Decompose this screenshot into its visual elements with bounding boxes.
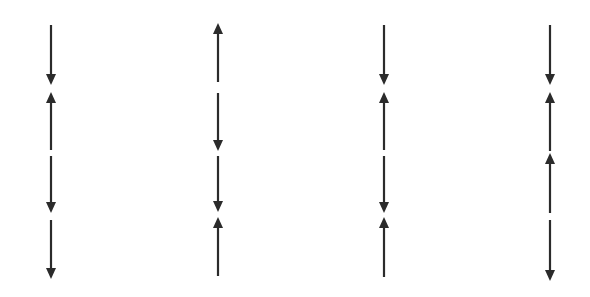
arrow-head — [379, 217, 389, 228]
arrow-up-icon — [379, 217, 389, 277]
arrow-down-icon — [379, 25, 389, 85]
arrow-head — [46, 74, 56, 85]
arrow-up-icon — [46, 92, 56, 150]
arrow-down-icon — [545, 25, 555, 85]
arrow-diagram-canvas — [0, 0, 590, 297]
arrow-up-icon — [213, 217, 223, 276]
arrow-up-icon — [379, 92, 389, 150]
arrow-down-icon — [213, 156, 223, 212]
arrow-diagram — [0, 0, 590, 297]
arrow-up-icon — [545, 153, 555, 213]
arrow-column-4 — [545, 25, 555, 281]
arrow-column-2 — [213, 23, 223, 276]
arrow-head — [213, 217, 223, 228]
arrow-head — [213, 201, 223, 212]
arrow-head — [46, 92, 56, 103]
arrow-head — [46, 202, 56, 213]
arrow-head — [379, 74, 389, 85]
arrow-column-3 — [379, 25, 389, 277]
arrow-head — [379, 202, 389, 213]
arrow-down-icon — [46, 25, 56, 85]
arrow-head — [379, 92, 389, 103]
arrow-down-icon — [545, 220, 555, 281]
arrow-head — [213, 23, 223, 34]
arrow-head — [545, 74, 555, 85]
arrow-down-icon — [46, 220, 56, 279]
arrow-head — [545, 153, 555, 164]
arrow-head — [545, 92, 555, 103]
arrow-up-icon — [545, 92, 555, 151]
arrow-up-icon — [213, 23, 223, 82]
arrow-head — [545, 270, 555, 281]
arrow-down-icon — [379, 156, 389, 213]
arrow-head — [213, 140, 223, 151]
arrow-down-icon — [213, 93, 223, 151]
arrow-down-icon — [46, 156, 56, 213]
arrow-head — [46, 268, 56, 279]
arrow-column-1 — [46, 25, 56, 279]
